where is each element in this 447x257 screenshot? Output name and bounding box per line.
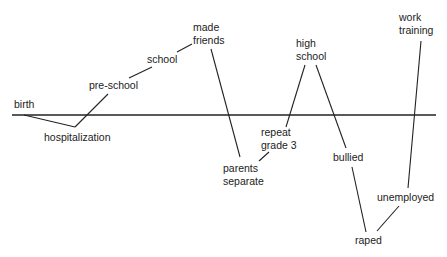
event-label-school: school xyxy=(147,53,177,66)
connector-birth-to-hospitalization xyxy=(24,115,75,127)
connector-school-to-made-friends xyxy=(177,44,192,52)
event-label-high-school: highschool xyxy=(296,37,326,63)
connector-raped-to-unemployed xyxy=(377,206,399,231)
event-label-work-training: worktraining xyxy=(399,11,433,37)
event-label-made-friends: madefriends xyxy=(193,21,225,47)
life-timeline-diagram: birthhospitalizationpre-schoolschoolmade… xyxy=(0,0,447,257)
event-label-raped: raped xyxy=(355,234,382,247)
event-label-bullied: bullied xyxy=(333,151,363,164)
event-label-unemployed: unemployed xyxy=(377,191,434,204)
event-label-birth: birth xyxy=(14,98,34,111)
event-label-repeat-grade-3: repeatgrade 3 xyxy=(261,126,297,152)
connector-high-school-to-bullied xyxy=(316,65,346,148)
connector-repeat-grade-3-to-high-school xyxy=(286,65,305,127)
connector-hospitalization-to-pre-school xyxy=(75,94,108,127)
connector-pre-school-to-school xyxy=(129,67,152,78)
connector-made-friends-to-parents-separate xyxy=(211,49,240,157)
connector-bullied-to-raped xyxy=(352,167,366,232)
event-label-hospitalization: hospitalization xyxy=(44,131,111,144)
event-label-parents-separate: parentsseparate xyxy=(223,162,264,188)
connector-parents-separate-to-repeat-grade-3 xyxy=(259,152,269,161)
event-label-pre-school: pre-school xyxy=(89,79,138,92)
